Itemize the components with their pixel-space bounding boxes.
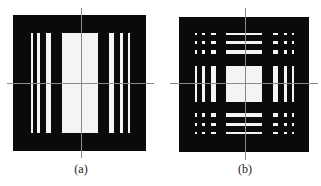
dot — [284, 50, 287, 54]
hbar-top-wide — [226, 50, 262, 54]
dot — [195, 132, 197, 134]
dot — [284, 33, 287, 35]
hbar-bottom-medium — [226, 123, 262, 126]
dot — [195, 113, 197, 117]
dot — [202, 33, 205, 35]
dot — [273, 41, 278, 44]
dot — [273, 123, 278, 126]
dot — [292, 132, 294, 134]
dot — [292, 50, 294, 54]
panel-label-b: (b) — [230, 162, 260, 177]
dot — [211, 123, 216, 126]
vbar-right-wide — [273, 66, 278, 102]
vbar-left-thin — [195, 66, 197, 102]
y-axis-b — [245, 8, 246, 160]
dot — [195, 50, 197, 54]
dot — [292, 123, 294, 126]
dot — [211, 50, 216, 54]
dot — [292, 41, 294, 44]
hbar-top-medium — [226, 41, 262, 44]
dot — [202, 113, 205, 117]
center-opening — [226, 66, 262, 102]
dot — [211, 132, 216, 134]
dot — [284, 41, 287, 44]
dot — [284, 123, 287, 126]
panel-b: (b) — [0, 0, 321, 186]
dot — [202, 50, 205, 54]
dot — [292, 33, 294, 35]
vbar-right-thin — [292, 66, 294, 102]
dot — [292, 113, 294, 117]
dot — [273, 33, 278, 35]
dot — [195, 123, 197, 126]
dot — [195, 41, 197, 44]
dot — [273, 113, 278, 117]
dot — [273, 132, 278, 134]
dot — [211, 33, 216, 35]
dot — [211, 113, 216, 117]
dot — [284, 113, 287, 117]
dot — [284, 132, 287, 134]
dot — [273, 50, 278, 54]
vbar-left-wide — [211, 66, 216, 102]
dot — [211, 41, 216, 44]
dot — [195, 33, 197, 35]
hbar-bottom-thin — [226, 132, 262, 134]
hbar-bottom-wide — [226, 113, 262, 117]
dot — [202, 123, 205, 126]
vbar-right-medium — [284, 66, 287, 102]
dot — [202, 132, 205, 134]
vbar-left-medium — [202, 66, 205, 102]
hbar-top-thin — [226, 33, 262, 35]
dot — [202, 41, 205, 44]
x-axis-b — [170, 83, 318, 84]
